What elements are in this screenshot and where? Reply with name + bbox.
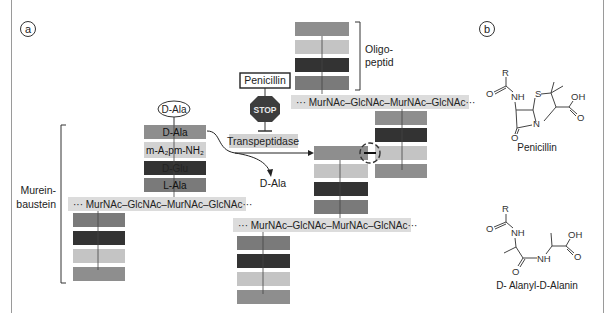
murein-bracket: [61, 125, 66, 283]
d-alanyl-d-alanin-structure: [494, 214, 574, 267]
oligopeptid-label-2: peptid: [365, 56, 394, 68]
oligo-stack-bottom: [237, 232, 290, 304]
d-alanyl-atom-labels: R O NH O NH OH O: [486, 203, 582, 277]
svg-text:O: O: [486, 88, 493, 99]
oligopeptid-bracket: [355, 22, 360, 90]
murein-label-2: baustein: [16, 198, 56, 210]
svg-text:Penicillin: Penicillin: [244, 74, 286, 86]
penicillin-name: Penicillin: [517, 142, 556, 153]
d-alanyl-d-alanin-name: D- Alanyl-D-Alanin: [496, 280, 578, 291]
svg-text:NH: NH: [511, 227, 525, 238]
penicillin-inhibitor: Penicillin: [240, 73, 290, 96]
svg-text:S: S: [535, 88, 541, 99]
svg-text:b: b: [484, 23, 490, 35]
svg-text:a: a: [25, 23, 32, 35]
stop-sign-icon: STOP: [250, 96, 280, 131]
peptide-l-ala: L-Ala: [163, 180, 187, 191]
peptide-d-glu: D-Glu: [162, 163, 188, 174]
diagram-canvas: a b Murein- baustein D-Ala D-Ala m-A₂pm-…: [0, 0, 612, 313]
transpeptidase-label: Transpeptidase: [227, 134, 299, 148]
oligo-stack-crosslinked: [314, 146, 368, 218]
svg-text:O: O: [512, 266, 519, 277]
panel-b-label: b: [480, 22, 495, 37]
svg-text:O: O: [574, 251, 581, 262]
peptide-d-ala: D-Ala: [162, 127, 187, 138]
glycan-chain-left: ··· MurNAc–GlcNAc–MurNAc–GlcNAc···: [68, 197, 252, 211]
glycan-chain-top: ··· MurNAc–GlcNAc–MurNAc–GlcNAc···: [291, 95, 475, 109]
svg-text:O: O: [577, 112, 584, 123]
peptide-a2pm: m-A₂pm-NH₂: [146, 145, 204, 156]
svg-text:NH: NH: [511, 91, 525, 102]
svg-text:D-Ala: D-Ala: [161, 104, 186, 115]
svg-text:STOP: STOP: [254, 105, 277, 115]
svg-text:O: O: [486, 223, 493, 234]
free-d-ala: D-Ala: [158, 101, 190, 117]
oligo-stack-left-lower: [73, 211, 125, 281]
svg-text:Transpeptidase: Transpeptidase: [227, 135, 299, 147]
glycan-chain-bottom: ··· MurNAc–GlcNAc–MurNAc–GlcNAc···: [233, 218, 417, 232]
svg-text:OH: OH: [568, 229, 582, 240]
svg-text:··· MurNAc–GlcNAc–MurNAc–GlcNA: ··· MurNAc–GlcNAc–MurNAc–GlcNAc···: [296, 97, 475, 108]
panel-a-label: a: [21, 22, 36, 37]
svg-text:··· MurNAc–GlcNAc–MurNAc–GlcNA: ··· MurNAc–GlcNAc–MurNAc–GlcNAc···: [238, 220, 417, 231]
svg-text:R: R: [502, 67, 509, 78]
svg-text:N: N: [533, 118, 540, 129]
svg-text:R: R: [502, 203, 509, 214]
oligo-stack-right-upper: [375, 109, 427, 178]
released-d-ala: D-Ala: [260, 177, 286, 189]
oligo-stack-top: [295, 22, 349, 94]
svg-text:OH: OH: [571, 91, 585, 102]
svg-text:NH: NH: [537, 253, 551, 264]
oligopeptid-label-1: Oligo-: [365, 43, 394, 55]
murein-label-1: Murein-: [20, 184, 56, 196]
peptide-stack-left: D-Ala m-A₂pm-NH₂ D-Glu L-Ala: [144, 125, 206, 198]
svg-text:··· MurNAc–GlcNAc–MurNAc–GlcNA: ··· MurNAc–GlcNAc–MurNAc–GlcNAc···: [73, 199, 252, 210]
